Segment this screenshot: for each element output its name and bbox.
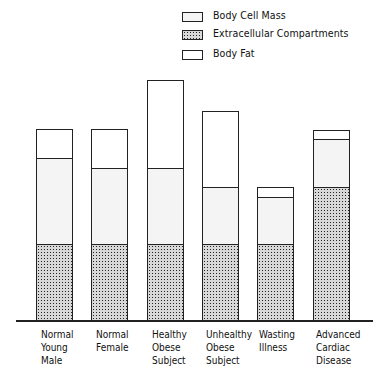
- extracellular-segment: [257, 244, 294, 321]
- body-cell-mass-segment: [257, 197, 294, 245]
- body-cell-mass-segment: [36, 158, 73, 245]
- extracellular-segment: [36, 244, 73, 321]
- legend-swatch-body-cell-mass: [182, 12, 203, 22]
- x-label-wasting-illness: Wasting Illness: [259, 328, 295, 354]
- body-fat-segment: [147, 80, 184, 169]
- extracellular-segment: [147, 244, 184, 321]
- extracellular-segment: [202, 244, 239, 321]
- extracellular-segment: [313, 187, 350, 321]
- legend-swatch-body-fat: [182, 50, 203, 60]
- body-cell-mass-segment: [202, 187, 239, 245]
- body-fat-segment: [313, 130, 350, 140]
- x-label-normal-female: Normal Female: [96, 328, 129, 354]
- x-axis-line: [16, 320, 373, 322]
- body-cell-mass-segment: [91, 168, 128, 245]
- body-cell-mass-segment: [313, 139, 350, 188]
- body-fat-segment: [91, 129, 128, 169]
- body-fat-segment: [36, 129, 73, 159]
- body-cell-mass-segment: [147, 168, 184, 245]
- legend-swatch-extracellular: [182, 30, 203, 40]
- x-label-healthy-obese: Healthy Obese Subject: [152, 328, 187, 367]
- x-label-unhealthy-obese: Unhealthy Obese Subject: [206, 328, 252, 367]
- stacked-bar-chart: Body Cell Mass Extracellular Compartment…: [0, 0, 390, 378]
- extracellular-segment: [91, 244, 128, 321]
- x-label-advanced-cardiac: Advanced Cardiac Disease: [316, 328, 360, 367]
- body-fat-segment: [257, 187, 294, 198]
- body-fat-segment: [202, 111, 239, 188]
- x-label-normal-young-male: Normal Young Male: [41, 328, 74, 367]
